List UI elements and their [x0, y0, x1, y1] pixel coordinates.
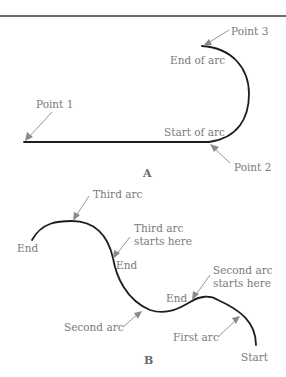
caption-a: A [142, 167, 152, 180]
point2-arrow-icon [210, 144, 230, 163]
second-arc-arrow-icon [123, 311, 142, 327]
first-arc-label: First arc [173, 331, 219, 343]
caption-b: B [144, 354, 153, 367]
end-middle-label: End [116, 259, 137, 271]
point3-label: Point 3 [231, 25, 268, 37]
diagram-a: Point 1 Point 2 Point 3 End of arc Start… [24, 25, 271, 180]
first-arc-arrow-icon [218, 316, 240, 337]
point2-label: Point 2 [234, 161, 271, 173]
second-arc-starts-line2: starts here [213, 277, 271, 289]
third-arc-label: Third arc [93, 188, 142, 200]
end-right-label: End [166, 292, 187, 304]
third-arc-starts-line2: starts here [134, 235, 192, 247]
end-left-label: End [17, 242, 38, 254]
third-arc [32, 221, 113, 258]
third-arc-starts-arrow-icon [113, 237, 130, 259]
arc-construction-figure: Point 1 Point 2 Point 3 End of arc Start… [0, 0, 286, 377]
end-of-arc-label: End of arc [170, 54, 225, 66]
second-arc-starts-line1: Second arc [213, 264, 273, 276]
point1-label: Point 1 [36, 98, 73, 110]
start-of-arc-label: Start of arc [164, 126, 225, 138]
diagram-b: Third arc End Third arc starts here End … [17, 188, 273, 367]
point1-arrow-icon [25, 112, 52, 141]
start-label: Start [241, 351, 269, 363]
third-arc-arrow-icon [73, 196, 89, 221]
point3-arrow-icon [203, 30, 229, 46]
second-arc-label: Second arc [64, 321, 124, 333]
third-arc-starts-line1: Third arc [134, 222, 183, 234]
